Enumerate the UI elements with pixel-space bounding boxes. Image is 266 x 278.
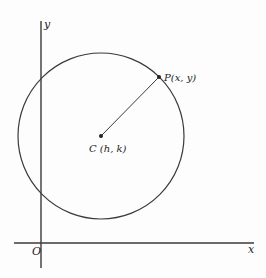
y-axis-label: y (43, 18, 51, 31)
center-point (99, 134, 103, 138)
center-label: C (h, k) (89, 143, 127, 154)
x-axis-label: x (248, 243, 255, 256)
point-p (157, 75, 161, 79)
circle-diagram: y x O C (h, k) P(x, y) (0, 0, 266, 278)
point-p-label: P(x, y) (163, 72, 196, 83)
origin-label: O (32, 245, 41, 258)
diagram-canvas: y x O C (h, k) P(x, y) (0, 0, 266, 278)
radius-segment (101, 77, 159, 136)
